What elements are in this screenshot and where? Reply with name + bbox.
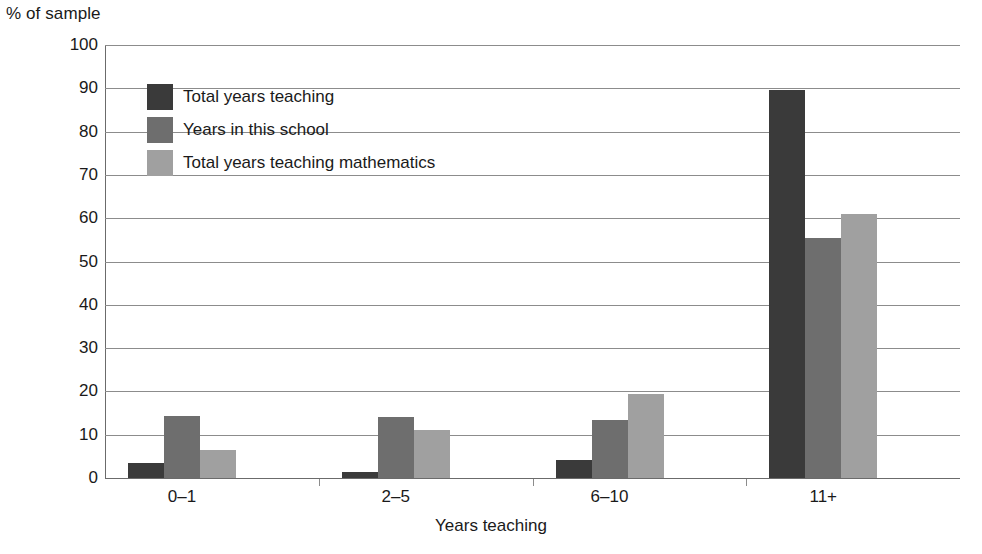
bar [164,416,200,478]
legend-swatch-icon [147,150,173,176]
bar [805,238,841,478]
y-axis-tick-label: 50 [6,253,98,270]
legend-item-label: Years in this school [183,118,329,142]
x-axis-category-label: 0–1 [122,487,242,507]
x-axis-tick [533,479,534,486]
y-axis-tick-label: 10 [6,426,98,443]
bar [628,394,664,478]
bar-chart: % of sample 1009080706050403020100 0–12–… [0,0,982,554]
y-axis-tick-label: 30 [6,339,98,356]
gridline [105,218,960,219]
y-axis-tick-label: 100 [6,36,98,53]
legend-item-label: Total years teaching mathematics [183,151,435,175]
legend-item-label: Total years teaching [183,85,334,109]
y-axis-tick-label: 70 [6,166,98,183]
x-axis-category-label: 6–10 [550,487,670,507]
bar [128,463,164,478]
gridline [105,45,960,46]
y-axis-tick-label: 60 [6,209,98,226]
x-axis-tick [746,479,747,486]
bar [378,417,414,478]
legend-swatch-icon [147,117,173,143]
x-axis-category-label: 2–5 [336,487,456,507]
legend-swatch-icon [147,84,173,110]
x-axis-title: Years teaching [0,516,982,536]
bar [556,460,592,478]
y-axis-tick-label: 80 [6,123,98,140]
gridline [105,175,960,176]
bar [342,472,378,478]
y-axis-tick-label: 40 [6,296,98,313]
x-axis-tick [319,479,320,486]
bar [769,90,805,478]
bar [841,214,877,478]
bar [592,420,628,478]
y-axis-tick-label: 20 [6,382,98,399]
plot-area [105,45,960,478]
x-axis-category-label: 11+ [763,487,883,507]
bar [200,450,236,478]
bar [414,430,450,478]
y-axis-tick-label: 0 [6,469,98,486]
y-axis-tick-label: 90 [6,79,98,96]
y-axis-tick-labels: 1009080706050403020100 [0,0,98,554]
